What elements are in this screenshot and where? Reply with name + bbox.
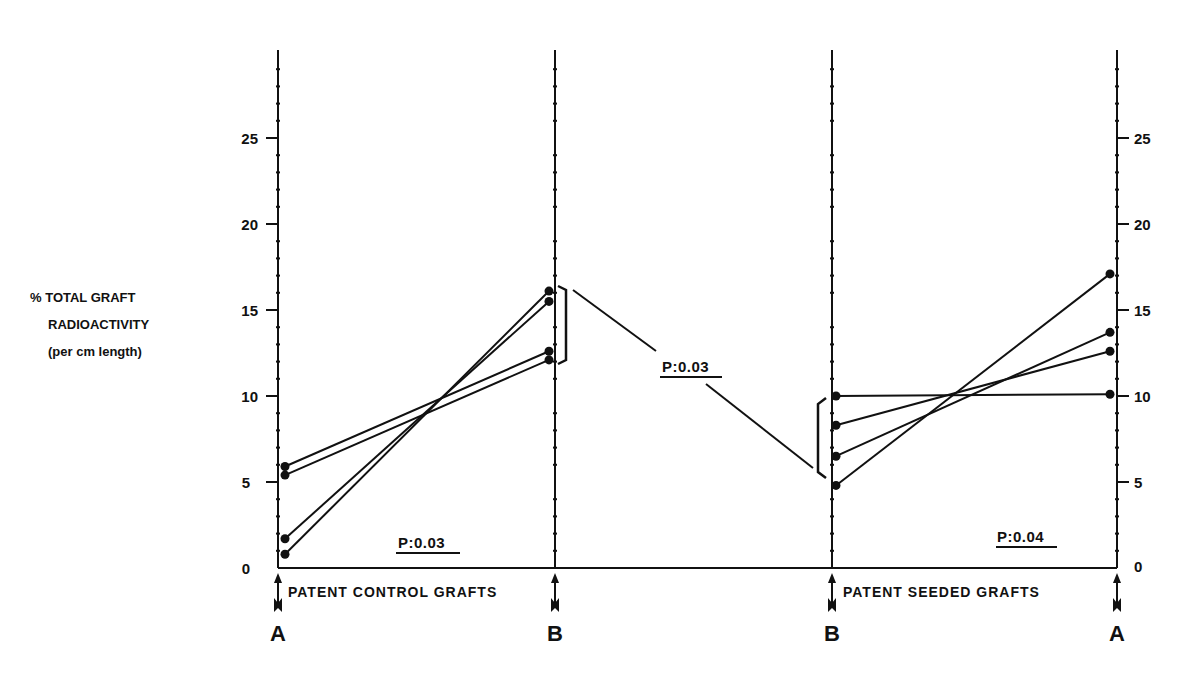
p-values: P:0.03 P:0.03 P:0.04	[396, 358, 1057, 553]
tick-label: 10	[241, 388, 258, 405]
arrow-up-icon	[828, 573, 836, 583]
y-tick-labels-right: 0 5 10 15 20 25	[1134, 130, 1151, 575]
arrow-up-icon	[1113, 573, 1121, 583]
series-line	[285, 360, 549, 475]
tick-label: 20	[241, 216, 258, 233]
data-point	[1106, 347, 1115, 356]
arrow-up-icon	[551, 573, 559, 583]
data-point	[832, 452, 841, 461]
tick-label: 15	[1134, 302, 1151, 319]
brackets	[558, 286, 826, 478]
connector-lower	[706, 384, 813, 468]
data-point	[1106, 328, 1115, 337]
tick-label: 5	[242, 474, 250, 491]
series-line	[836, 274, 1110, 486]
series-group	[281, 269, 1115, 558]
timepoint-label-a-right: A	[1109, 621, 1125, 646]
p-value-seeded: P:0.04	[997, 528, 1044, 545]
tick-label: 5	[1134, 474, 1142, 491]
major-ticks	[266, 138, 1129, 482]
data-point	[832, 481, 841, 490]
data-point	[545, 347, 554, 356]
bracket-control-b	[558, 286, 566, 364]
data-point	[281, 534, 290, 543]
series-line	[285, 291, 549, 554]
data-point	[545, 297, 554, 306]
data-point	[832, 421, 841, 430]
axes	[278, 50, 1117, 568]
tick-label: 25	[1134, 130, 1151, 147]
timepoint-label-b-left: B	[547, 621, 563, 646]
y-axis-title: % TOTAL GRAFT RADIOACTIVITY (per cm leng…	[30, 290, 149, 359]
data-point	[545, 287, 554, 296]
series-line	[836, 351, 1110, 425]
tick-label: 20	[1134, 216, 1151, 233]
tick-label: 25	[241, 130, 258, 147]
y-axis-title-line1: % TOTAL GRAFT	[30, 290, 136, 305]
tick-label: 0	[242, 560, 250, 577]
arrow-up-icon	[274, 573, 282, 583]
timepoint-label-a-left: A	[270, 621, 286, 646]
control-group-label: PATENT CONTROL GRAFTS	[288, 584, 497, 600]
data-point	[832, 392, 841, 401]
chart-canvas: 0 5 10 15 20 25 0 5 10 15 20 25 % TOTAL …	[0, 0, 1192, 682]
data-point	[281, 550, 290, 559]
data-point	[281, 462, 290, 471]
y-axis-title-line2: RADIOACTIVITY	[48, 317, 149, 332]
series-line	[285, 301, 549, 538]
series-line	[285, 351, 549, 466]
tick-label: 10	[1134, 388, 1151, 405]
p-value-between: P:0.03	[662, 358, 709, 375]
connector-upper	[573, 290, 656, 351]
data-point	[281, 471, 290, 480]
p-value-control: P:0.03	[398, 534, 445, 551]
bracket-seeded-b	[818, 398, 826, 478]
tick-label: 15	[241, 302, 258, 319]
data-point	[545, 355, 554, 364]
tick-label: 0	[1134, 558, 1142, 575]
data-point	[1106, 269, 1115, 278]
y-axis-title-line3: (per cm length)	[48, 344, 142, 359]
timepoint-label-b-right: B	[824, 621, 840, 646]
data-point	[1106, 390, 1115, 399]
seeded-group-label: PATENT SEEDED GRAFTS	[843, 584, 1040, 600]
minor-ticks	[276, 69, 1119, 551]
y-tick-labels-left: 0 5 10 15 20 25	[241, 130, 258, 577]
